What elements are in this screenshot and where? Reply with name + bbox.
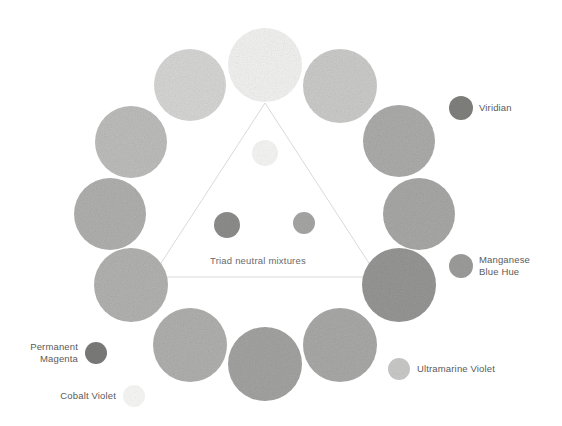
ring-circle-10 <box>95 106 167 178</box>
triad-triangle <box>152 103 378 277</box>
mixture-circle-top-neutral <box>252 140 278 166</box>
ring-circle-7 <box>153 308 227 382</box>
swatch-cobalt-violet <box>123 385 145 407</box>
ring-circle-2 <box>363 105 435 177</box>
figure-canvas: Triad neutral mixtures ViridianManganese… <box>0 0 562 426</box>
swatch-permanent-magenta <box>85 342 107 364</box>
swatch-label-viridian: Viridian <box>479 102 512 114</box>
swatch-manganese-blue-hue <box>449 254 473 278</box>
swatch-label-cobalt-violet: Cobalt Violet <box>40 390 116 402</box>
swatch-label-manganese-blue-hue: Manganese Blue Hue <box>479 254 530 278</box>
ring-circle-3 <box>383 178 455 250</box>
ring-circle-0 <box>228 28 302 102</box>
ring-circle-8 <box>94 248 168 322</box>
triad-neutral-mixtures-label: Triad neutral mixtures <box>210 255 306 266</box>
swatch-viridian <box>449 96 473 120</box>
ring-circle-5 <box>303 308 377 382</box>
ring-circle-9 <box>74 178 146 250</box>
mixture-circle-right-neutral <box>293 212 315 234</box>
swatch-label-permanent-magenta: Permanent Magenta <box>8 341 78 365</box>
ring-circle-1 <box>303 49 377 123</box>
ring-circle-group <box>74 28 455 401</box>
mixture-circle-left-neutral <box>214 212 240 238</box>
ring-circle-11 <box>154 49 226 121</box>
swatch-label-ultramarine-violet: Ultramarine Violet <box>417 363 495 375</box>
ring-circle-4 <box>362 248 436 322</box>
ring-circle-6 <box>228 327 302 401</box>
mixture-circle-group <box>214 140 315 238</box>
swatch-ultramarine-violet <box>388 358 410 380</box>
